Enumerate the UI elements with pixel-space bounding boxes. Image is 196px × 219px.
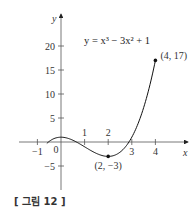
point-marker <box>154 59 158 63</box>
equation-label: y = x³ − 3x² + 1 <box>84 35 150 46</box>
y-tick-label: 15 <box>45 65 55 76</box>
function-graph: −101234−55101520 x y y = x³ − 3x² + 1 (2… <box>0 0 196 219</box>
figure-caption: [ 그림 12 ] <box>14 193 66 208</box>
y-tick-label: 10 <box>45 89 55 100</box>
point-label: (4, 17) <box>160 50 187 62</box>
point-label: (2, −3) <box>95 160 122 172</box>
axis-tick-labels: −101234−55101520 <box>32 41 158 172</box>
point-marker <box>106 155 110 159</box>
labeled-points: (2, −3)(4, 17) <box>95 50 188 172</box>
x-tick-label: 2 <box>106 127 111 138</box>
x-tick-label: 3 <box>129 146 134 157</box>
x-axis-label: x <box>182 147 188 158</box>
y-axis-label: y <box>51 13 57 24</box>
x-tick-label: 0 <box>54 144 59 155</box>
y-tick-label: 20 <box>45 41 55 52</box>
x-tick-label: 1 <box>82 127 87 138</box>
y-tick-label: −5 <box>44 161 55 172</box>
y-tick-label: 5 <box>50 113 55 124</box>
x-tick-label: −1 <box>32 146 43 157</box>
x-tick-label: 4 <box>153 146 158 157</box>
